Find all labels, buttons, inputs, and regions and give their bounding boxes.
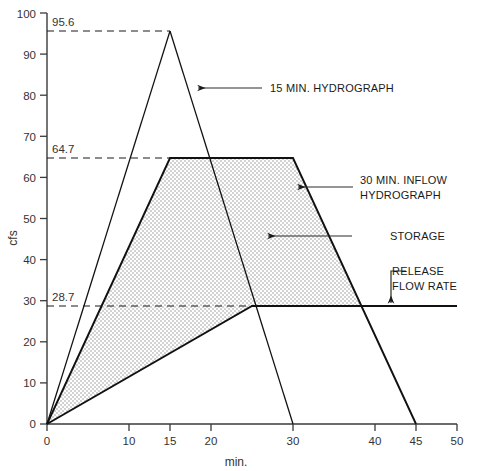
y-tick-label: 80 (23, 90, 36, 102)
annotation-label: RELEASE (392, 265, 444, 277)
x-tick-label: 10 (123, 435, 136, 447)
y-tick-label: 90 (23, 49, 36, 61)
y-tick-label: 100 (17, 8, 36, 20)
y-tick-label: 50 (23, 213, 36, 225)
y-tick-label: 30 (23, 295, 36, 307)
annotation-label: 30 MIN. INFLOW (360, 174, 448, 186)
value-label-95-6: 95.6 (52, 16, 74, 28)
value-label-28-7: 28.7 (52, 291, 74, 303)
y-tick-label: 70 (23, 131, 36, 143)
y-tick-label: 40 (23, 254, 36, 266)
hydrograph-chart: 0 10 20 30 40 50 60 70 80 90 100 0 10 15… (0, 0, 485, 471)
x-tick-label: 30 (287, 435, 300, 447)
value-label-64-7: 64.7 (52, 143, 74, 155)
x-tick-label: 50 (451, 435, 464, 447)
x-tick-label: 15 (164, 435, 177, 447)
x-tick-label: 0 (44, 435, 50, 447)
annotation-label: FLOW RATE (392, 280, 457, 292)
annotation-label: STORAGE (390, 230, 445, 242)
y-tick-label: 10 (23, 377, 36, 389)
x-tick-label: 40 (369, 435, 382, 447)
y-tick-label: 0 (30, 418, 36, 430)
x-tick-label: 20 (205, 435, 218, 447)
y-tick-label: 60 (23, 172, 36, 184)
y-tick-label: 20 (23, 336, 36, 348)
x-axis-title: min. (225, 455, 248, 469)
annotation-label: 15 MIN. HYDROGRAPH (270, 82, 394, 94)
y-axis-title: cfs (6, 230, 20, 245)
x-tick-label: 45 (410, 435, 423, 447)
annotation-label: HYDROGRAPH (360, 189, 441, 201)
